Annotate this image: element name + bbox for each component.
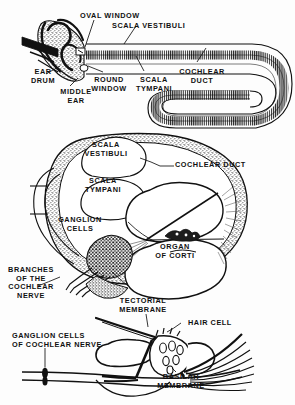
label-scala-tympani-top: SCALA TYMPANI — [133, 76, 175, 93]
label-scala-vestibuli-top: SCALA VESTIBULI — [112, 22, 185, 31]
label-scala-vestibuli-mid: SCALA VESTIBULI — [82, 141, 130, 158]
label-ear-drum: EAR DRUM — [26, 68, 60, 85]
label-basilar-membrane: BASILAR MEMBRANE — [150, 373, 212, 390]
label-hair-cell: HAIR CELL — [188, 319, 232, 328]
oval-window-marker — [76, 48, 85, 55]
label-cochlear-duct-top: COCHLEAR DUCT — [178, 68, 226, 85]
label-cochlear-duct-mid: COCHLEAR DUCT — [175, 161, 246, 170]
label-oval-window: OVAL WINDOW — [80, 12, 140, 21]
label-ganglion-cells: GANGLION CELLS — [52, 216, 108, 233]
figure-canvas: OVAL WINDOW SCALA VESTIBULI EAR DRUM MID… — [0, 0, 295, 405]
ganglion-cell-bodies — [42, 368, 48, 386]
label-round-window: ROUND WINDOW — [88, 76, 130, 93]
label-scala-tympani-mid: SCALA TYMPANI — [80, 177, 126, 194]
hair-cell-body — [150, 328, 191, 376]
panel-uncoiled-cochlea — [22, 20, 292, 128]
nerve-trunk-left — [102, 376, 138, 381]
label-branches-of-cochlear-nerve: BRANCHES OF THE COCHLEAR NERVE — [2, 266, 60, 300]
stereocilia — [156, 328, 180, 336]
label-ganglion-cells-of-cochlear-nerve: GANGLION CELLS OF COCHLEAR NERVE — [12, 332, 102, 349]
label-tectorial-membrane: TECTORIAL MEMBRANE — [112, 297, 174, 314]
round-window-marker — [80, 65, 88, 72]
label-organ-of-corti: ORGAN OF CORTI — [148, 243, 202, 260]
